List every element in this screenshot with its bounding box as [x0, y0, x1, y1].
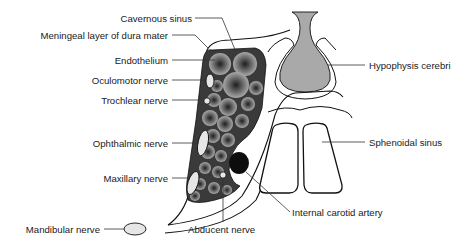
trochlear-nerve-shape — [204, 98, 210, 104]
label-cavernous-sinus: Cavernous sinus — [100, 13, 192, 24]
oculomotor-nerve-shape — [206, 74, 214, 88]
label-ophthalmic-nerve: Ophthalmic nerve — [60, 138, 168, 149]
label-meningeal-layer: Meningeal layer of dura mater — [20, 30, 168, 41]
label-maxillary-nerve: Maxillary nerve — [60, 173, 168, 184]
label-internal-carotid-artery: Internal carotid artery — [292, 207, 383, 218]
label-oculomotor-nerve: Oculomotor nerve — [60, 75, 168, 86]
label-hypophysis-cerebri: Hypophysis cerebri — [369, 60, 451, 71]
label-mandibular-nerve: Mandibular nerve — [0, 224, 100, 235]
label-trochlear-nerve: Trochlear nerve — [60, 95, 168, 106]
label-endothelium: Endothelium — [60, 55, 168, 66]
hypophysis-cerebri-shape — [268, 12, 336, 99]
label-sphenoidal-sinus: Sphenoidal sinus — [369, 137, 442, 148]
mandibular-nerve-shape — [124, 223, 146, 235]
abducent-nerve-shape — [220, 172, 226, 178]
label-abducent-nerve: Abducent nerve — [188, 224, 255, 235]
internal-carotid-artery-shape — [229, 152, 249, 174]
